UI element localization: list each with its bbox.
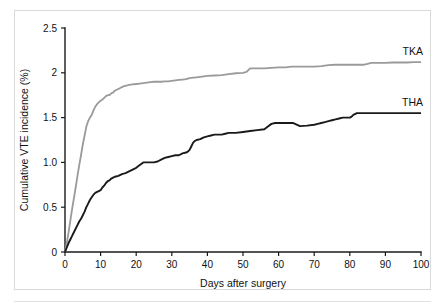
x-axis-tick-labels: 0102030405060708090100 [62, 259, 430, 270]
y-tick-label-1.0: 1.0 [43, 157, 57, 168]
y-tick-label-1.5: 1.5 [43, 112, 57, 123]
y-tick-label-0.5: 0.5 [43, 202, 57, 213]
y-axis-tick-labels: 00.51.01.522.5 [43, 23, 57, 258]
x-tick-label-70: 70 [309, 259, 321, 270]
x-axis-title: Days after surgery [200, 277, 287, 289]
x-tick-label-100: 100 [413, 259, 430, 270]
series-line-tha [65, 113, 421, 252]
x-tick-label-20: 20 [131, 259, 143, 270]
series-group [65, 62, 421, 252]
x-tick-label-50: 50 [237, 259, 249, 270]
y-axis-title: Cumulative VTE incidence (%) [18, 69, 30, 211]
x-tick-label-60: 60 [273, 259, 285, 270]
figure-root: 00.51.01.522.5 0102030405060708090100 TK… [0, 0, 445, 308]
x-tick-label-10: 10 [95, 259, 107, 270]
series-annotations: TKATHA [402, 45, 423, 108]
x-tick-label-0: 0 [62, 259, 68, 270]
vte-incidence-line-chart: 00.51.01.522.5 0102030405060708090100 TK… [0, 0, 445, 308]
y-tick-label-2.5: 2.5 [43, 23, 57, 34]
series-line-tka [65, 62, 421, 252]
y-tick-label-2: 2 [51, 67, 57, 78]
series-label-tka: TKA [403, 45, 423, 57]
x-tick-label-30: 30 [166, 259, 178, 270]
x-tick-label-40: 40 [202, 259, 214, 270]
x-tick-label-80: 80 [344, 259, 356, 270]
x-tick-label-90: 90 [380, 259, 392, 270]
y-tick-label-0: 0 [51, 247, 57, 258]
series-label-tha: THA [402, 96, 423, 108]
